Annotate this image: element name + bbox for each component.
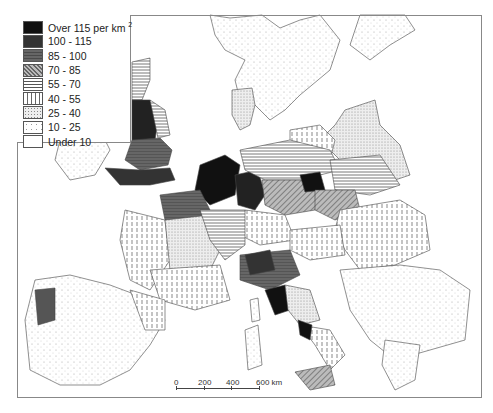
legend-item: 100 - 115 bbox=[23, 34, 130, 48]
swatch-40-55 bbox=[23, 92, 43, 105]
scale-tick bbox=[176, 386, 177, 390]
scale-tick bbox=[259, 386, 260, 390]
legend-item: Over 115 per km 2 bbox=[23, 20, 130, 34]
swatch-under-10 bbox=[23, 135, 43, 148]
scale-line bbox=[176, 388, 259, 389]
swatch-10-25 bbox=[23, 121, 43, 134]
legend-label: Over 115 per km bbox=[48, 21, 125, 33]
swatch-55-70 bbox=[23, 78, 43, 91]
legend-label: 100 - 115 bbox=[48, 35, 92, 47]
swatch-100-115 bbox=[23, 35, 43, 48]
scale-tick-label: 400 bbox=[226, 378, 239, 387]
swatch-25-40 bbox=[23, 106, 43, 119]
legend-superscript: 2 bbox=[128, 21, 132, 28]
legend-label: 25 - 40 bbox=[48, 107, 81, 119]
legend-item: 55 - 70 bbox=[23, 77, 130, 91]
legend-item: Under 10 bbox=[23, 134, 130, 148]
swatch-over-115 bbox=[23, 21, 43, 34]
legend-item: 85 - 100 bbox=[23, 49, 130, 63]
legend-item: 70 - 85 bbox=[23, 63, 130, 77]
legend-label: 55 - 70 bbox=[48, 78, 81, 90]
legend-item: 40 - 55 bbox=[23, 91, 130, 105]
swatch-70-85 bbox=[23, 64, 43, 77]
legend-label: Under 10 bbox=[48, 136, 91, 148]
legend-label: 40 - 55 bbox=[48, 93, 81, 105]
legend-label: 70 - 85 bbox=[48, 64, 81, 76]
legend: Over 115 per km 2 100 - 115 85 - 100 70 … bbox=[17, 15, 131, 143]
legend-label: 85 - 100 bbox=[48, 50, 87, 62]
legend-item: 10 - 25 bbox=[23, 120, 130, 134]
legend-item: 25 - 40 bbox=[23, 106, 130, 120]
scale-tick bbox=[204, 386, 205, 390]
scale-bar: 0 200 400 600 km bbox=[172, 378, 292, 394]
scale-tick bbox=[231, 386, 232, 390]
legend-label: 10 - 25 bbox=[48, 121, 81, 133]
swatch-85-100 bbox=[23, 49, 43, 62]
